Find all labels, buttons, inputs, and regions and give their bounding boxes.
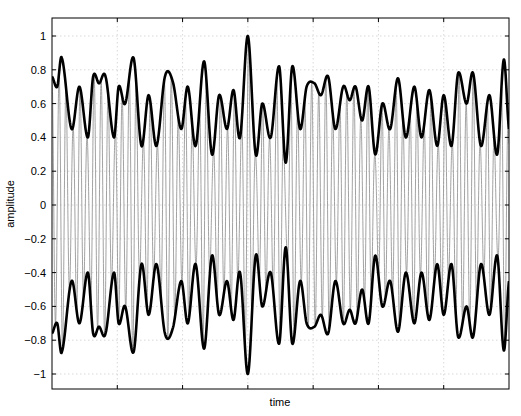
y-tick-label: 1 bbox=[40, 30, 46, 42]
y-tick-label: 0 bbox=[40, 199, 46, 211]
y-tick-label: −0.6 bbox=[24, 300, 46, 312]
y-tick-label: −0.8 bbox=[24, 334, 46, 346]
y-axis-label: amplitude bbox=[4, 180, 16, 228]
x-axis-label: time bbox=[270, 396, 291, 408]
y-tick-label: 0.2 bbox=[31, 165, 46, 177]
y-tick-label: 0.4 bbox=[31, 131, 46, 143]
y-tick-label: 0.8 bbox=[31, 64, 46, 76]
y-tick-label: −0.2 bbox=[24, 233, 46, 245]
amplitude-time-chart: −1−0.8−0.6−0.4−0.200.20.40.60.81 time am… bbox=[0, 0, 521, 416]
y-tick-label: −1 bbox=[33, 368, 46, 380]
y-tick-label: 0.6 bbox=[31, 98, 46, 110]
y-tick-label: −0.4 bbox=[24, 267, 46, 279]
